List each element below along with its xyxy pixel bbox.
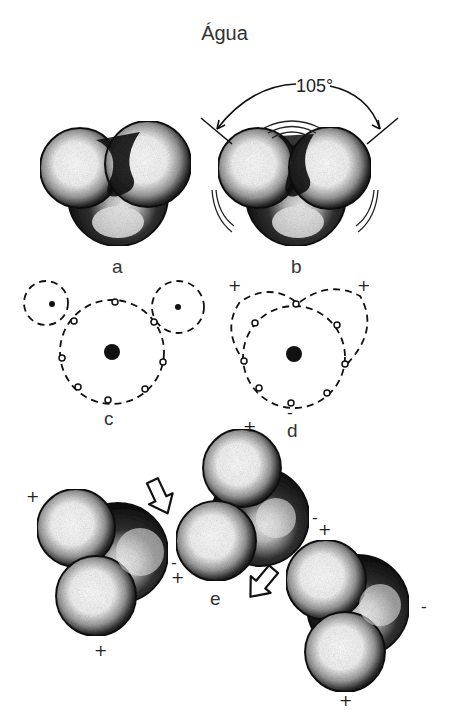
molecule-e-left <box>37 489 168 636</box>
molecule-e-middle <box>176 429 309 581</box>
charge-minus-e3: - <box>421 597 427 616</box>
label-c: c <box>104 408 114 429</box>
charge-plus-e1: + <box>26 487 39 506</box>
molecule-b <box>218 127 371 246</box>
nucleus-d <box>286 346 302 362</box>
water-diagram: a 105° b <box>0 0 449 717</box>
charge-plus-d2: + <box>357 276 370 295</box>
label-b: b <box>291 256 302 277</box>
label-d: d <box>287 420 298 441</box>
molecule-a <box>40 121 191 246</box>
charge-minus-e2: - <box>312 508 318 527</box>
charge-plus-e3: + <box>171 568 184 587</box>
label-e: e <box>210 588 221 609</box>
charge-plus-e4: + <box>243 417 256 436</box>
charge-plus-e6: + <box>318 520 331 539</box>
orbit-nuclei-c <box>49 301 181 360</box>
label-a: a <box>112 256 123 277</box>
charge-plus-e7: + <box>339 691 352 710</box>
molecule-e-right <box>286 540 409 692</box>
charge-plus-e2: + <box>94 641 107 660</box>
angle-label: 105° <box>296 76 333 96</box>
charge-plus-d1: + <box>228 276 241 295</box>
